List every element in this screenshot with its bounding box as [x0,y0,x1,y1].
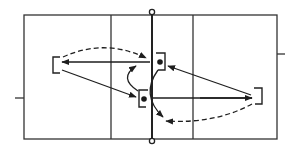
player-right-back-icon [254,88,262,104]
court [15,15,285,139]
run-right-back-to-net-arrow [166,104,252,121]
net-post-bottom-icon [149,138,154,143]
pass-left-back-to-left-front-arrow [62,70,136,97]
run-left-back-to-net-arrow [63,48,146,58]
player-left-back-icon [53,57,60,73]
ball-dot-right-front-icon [157,59,163,65]
ball-dot-left-front-icon [141,96,147,102]
players [53,53,262,107]
switch-left-front-up-arrow [127,66,138,91]
court-diagram: volleyball-court-play-diagram [0,0,299,156]
movements [62,48,252,122]
court-boundary [24,15,277,139]
net-post-top-icon [149,9,154,14]
pass-right-back-to-right-front-arrow [168,66,251,95]
